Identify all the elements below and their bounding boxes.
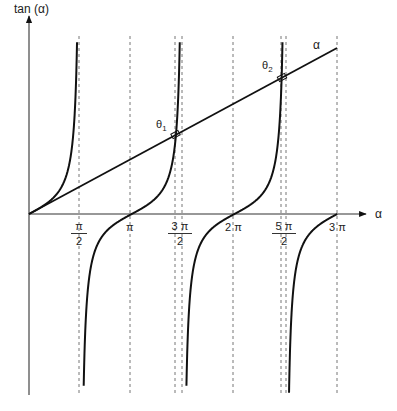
tick-3pi-over-2: 3 π2 [168,220,192,248]
theta1-label: θ1 [156,118,167,133]
alpha-line-label: α [313,38,320,52]
tick-pi: π [126,221,134,233]
alpha-line [29,48,337,214]
tick-pi-over-2: π2 [71,220,87,248]
tan-alpha-diagram [0,0,397,411]
x-axis-label: α [375,207,382,221]
tick-3pi: 3 π [329,221,346,233]
tan-curves [29,42,337,392]
tick-5pi-over-2: 5 π2 [272,220,296,248]
theta2-label: θ2 [262,59,273,74]
y-axis-label: tan (α) [14,2,49,16]
tick-2pi: 2 π [225,221,242,233]
asymptote-lines [79,36,337,395]
